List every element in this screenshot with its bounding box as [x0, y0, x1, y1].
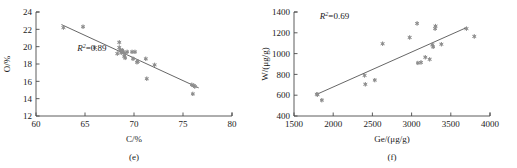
- data-point-marker: [130, 50, 134, 54]
- x-tick-label: 70: [130, 119, 140, 129]
- y-tick-label: 24: [23, 7, 33, 17]
- y-tick-label: 22: [23, 25, 32, 35]
- x-tick-label: 75: [179, 119, 189, 129]
- axes-f: [294, 12, 490, 116]
- data-point-marker: [364, 82, 368, 86]
- r-squared-annotation-e: R2=0.89: [76, 43, 107, 53]
- data-point-marker: [81, 25, 85, 29]
- y-tick-label: 20: [23, 42, 33, 52]
- x-tick-label: 4000: [481, 119, 500, 129]
- data-point-marker: [381, 42, 385, 46]
- y-tick-label: 16: [23, 77, 33, 87]
- x-axis-title-f: Ge/(μg/g): [374, 134, 409, 144]
- scatter-plot-f: 4006008001000120014001500200025003000350…: [258, 0, 516, 168]
- data-point-marker: [116, 52, 120, 56]
- y-tick-label: 1400: [272, 7, 291, 17]
- data-point-marker: [145, 77, 149, 81]
- panel-caption-f: (f): [388, 152, 397, 162]
- data-point-marker: [428, 57, 432, 61]
- data-point-marker: [117, 40, 121, 44]
- x-tick-label: 2000: [324, 119, 343, 129]
- chart-panel-e: 121416182022246065707580 C/% O/% R2=0.89…: [0, 0, 258, 168]
- axis-spines: [294, 12, 490, 116]
- data-points-f: [315, 21, 476, 102]
- data-point-marker: [191, 92, 195, 96]
- y-axis-title-f: W/(μg/g): [260, 47, 270, 80]
- panel-caption-e: (e): [129, 152, 139, 162]
- data-point-marker: [415, 21, 419, 25]
- data-point-marker: [320, 98, 324, 102]
- data-point-marker: [424, 55, 428, 59]
- regression-line: [316, 28, 467, 95]
- y-tick-label: 18: [23, 59, 33, 69]
- x-tick-label: 3500: [442, 119, 461, 129]
- trendline-e: [61, 25, 198, 88]
- figure-container: 121416182022246065707580 C/% O/% R2=0.89…: [0, 0, 517, 168]
- y-tick-label: 1200: [272, 28, 291, 38]
- x-tick-label: 80: [228, 119, 238, 129]
- x-tick-label: 3000: [403, 119, 422, 129]
- x-tick-label: 1500: [285, 119, 304, 129]
- x-tick-label: 2500: [363, 119, 382, 129]
- x-tick-label: 65: [81, 119, 91, 129]
- x-axis-title-e: C/%: [126, 134, 143, 144]
- axes-e: [36, 12, 232, 116]
- scatter-plot-e: 121416182022246065707580 C/% O/% R2=0.89…: [0, 0, 258, 168]
- data-point-marker: [153, 63, 157, 67]
- y-tick-label: 14: [23, 94, 33, 104]
- trendline-f: [316, 28, 467, 95]
- r-squared-annotation-f: R2=0.69: [319, 11, 350, 21]
- x-tick-label: 60: [32, 119, 42, 129]
- tick-labels-e: 121416182022246065707580: [23, 7, 237, 129]
- regression-line: [61, 25, 198, 88]
- data-point-marker: [473, 34, 477, 38]
- axis-spines: [36, 12, 232, 116]
- y-axis-title-e: O/%: [2, 55, 12, 72]
- data-point-marker: [133, 50, 137, 54]
- data-point-marker: [144, 57, 148, 61]
- data-point-marker: [408, 35, 412, 39]
- data-point-marker: [440, 42, 444, 46]
- y-tick-label: 800: [277, 70, 291, 80]
- data-points-e: [62, 25, 197, 96]
- chart-panel-f: 4006008001000120014001500200025003000350…: [258, 0, 516, 168]
- y-tick-label: 600: [277, 90, 291, 100]
- data-point-marker: [373, 78, 377, 82]
- tick-labels-f: 4006008001000120014001500200025003000350…: [272, 7, 500, 129]
- y-tick-label: 1000: [272, 49, 291, 59]
